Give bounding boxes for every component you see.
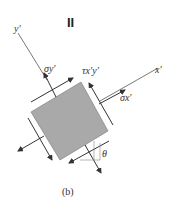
x-prime-label: x′ (154, 64, 162, 75)
stress-element-diagram: II y′ x′ σy′ τx′y′ σx′ θ (b) (0, 0, 173, 209)
header-mark: II (67, 15, 74, 30)
sigma-y-bottom-arrow (85, 145, 101, 173)
tau-xy-label: τx′y′ (82, 65, 100, 76)
theta-label: θ (102, 148, 107, 159)
sigma-x-label: σx′ (120, 92, 132, 103)
caption: (b) (62, 186, 74, 198)
y-prime-axis (18, 33, 47, 80)
y-prime-label: y′ (13, 23, 21, 34)
sigma-y-label: σy′ (44, 63, 56, 74)
